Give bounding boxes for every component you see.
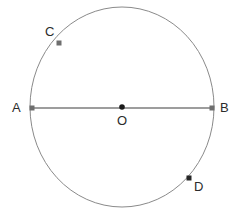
point-label-d: D bbox=[194, 180, 203, 193]
point-marker-d[interactable] bbox=[187, 176, 192, 181]
point-label-c: C bbox=[45, 25, 54, 38]
point-marker-b[interactable] bbox=[210, 106, 215, 111]
geometry-figure-canvas: A B O C D bbox=[0, 0, 245, 215]
point-label-o: O bbox=[117, 114, 127, 127]
point-marker-o[interactable] bbox=[119, 104, 125, 110]
point-marker-c[interactable] bbox=[57, 41, 62, 46]
geometry-figure-svg bbox=[0, 0, 245, 215]
point-label-a: A bbox=[12, 101, 21, 114]
point-label-b: B bbox=[220, 101, 229, 114]
point-marker-a[interactable] bbox=[30, 106, 35, 111]
